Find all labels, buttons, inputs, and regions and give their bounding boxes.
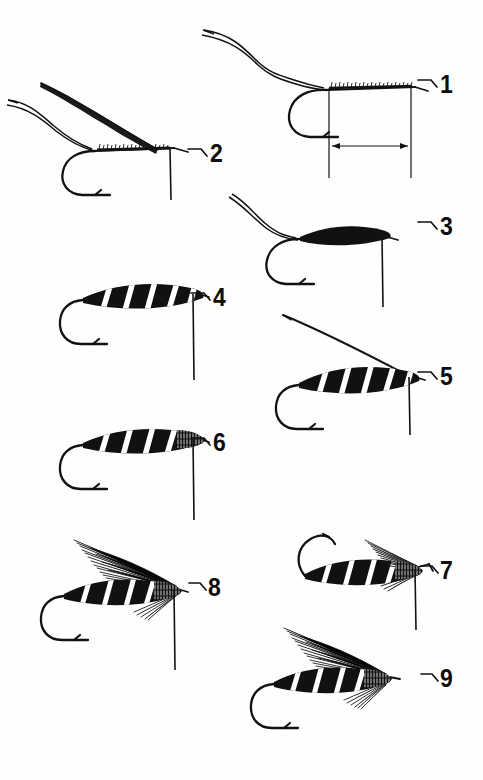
ribbed-body-4	[83, 274, 204, 318]
step-8-leader-tick	[189, 581, 211, 595]
step-4-leader-tick	[191, 291, 215, 305]
hackle-stem-5	[283, 315, 407, 375]
tying-thread-5	[409, 377, 410, 435]
ribbed-body-5	[299, 359, 420, 403]
thread-wraps-1	[329, 82, 412, 88]
step-5-leader-tick	[418, 370, 442, 384]
thread-wraps-2	[97, 144, 170, 150]
step-6-leader-tick	[191, 436, 215, 450]
tying-thread-8	[174, 590, 175, 670]
step-1-leader-tick	[418, 78, 442, 92]
step-9-illustration	[230, 612, 440, 752]
tying-thread-3	[382, 236, 383, 307]
step-9-leader-tick	[421, 672, 443, 686]
solid-body-3	[300, 226, 391, 245]
hook-2	[62, 148, 188, 195]
step-2-illustration	[6, 70, 236, 200]
step-3-leader-tick	[418, 220, 442, 234]
tippet-line-3	[229, 194, 298, 240]
step-2-leader-tick	[188, 147, 212, 161]
tying-thread-6	[193, 439, 194, 520]
step-8-illustration	[22, 532, 232, 672]
fly-tying-plate: 1	[0, 0, 483, 780]
tying-thread-4	[193, 294, 194, 380]
dimension-guides-1	[329, 86, 411, 178]
tying-thread-2	[170, 148, 171, 200]
quill-strip-2	[40, 82, 159, 154]
step-7-leader-tick	[421, 564, 443, 578]
hook-1	[289, 87, 428, 137]
